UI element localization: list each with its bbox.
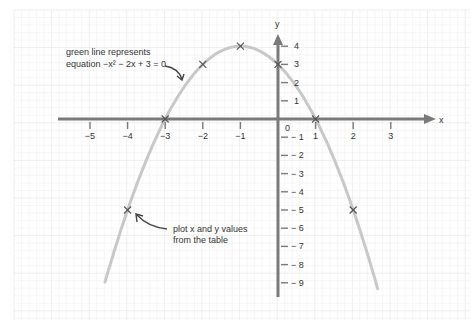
chart: xy −5−4−3−2−11234321− 1− 2− 3− 4− 5− 6− … (0, 0, 476, 327)
y-tick-label: − 1 (291, 132, 304, 142)
y-tick-label: − 9 (291, 278, 304, 288)
arrow-icon (137, 215, 167, 229)
y-tick-label: 2 (294, 78, 299, 88)
annotation-equation-line2: equation −x² − 2x + 3 = 0 (66, 59, 166, 69)
y-tick-label: − 6 (291, 223, 304, 233)
x-tick-label: −5 (85, 131, 95, 141)
y-tick-label: 3 (294, 59, 299, 69)
curve-line (105, 46, 378, 289)
y-tick-label: − 8 (291, 260, 304, 270)
annotation-plot-line1: plot x and y values (173, 224, 248, 234)
x-tick-label: 3 (388, 131, 393, 141)
annotation-equation-line1: green line represents (66, 47, 151, 57)
y-tick-label: − 2 (291, 150, 304, 160)
y-tick-label: 4 (294, 41, 299, 51)
annotation-plot-line2: from the table (173, 235, 228, 245)
y-tick-label: − 5 (291, 205, 304, 215)
y-axis-label: y (275, 19, 280, 29)
y-tick-label: − 3 (291, 169, 304, 179)
y-axis-arrow-icon (273, 34, 283, 45)
x-tick-label: −3 (160, 131, 170, 141)
x-tick-label: −4 (122, 131, 132, 141)
x-tick-label: −1 (235, 131, 245, 141)
x-tick-label: −2 (198, 131, 208, 141)
y-tick-label: − 4 (291, 187, 304, 197)
x-tick-label: 1 (313, 131, 318, 141)
origin-label: 0 (285, 123, 290, 133)
x-marker-icon (199, 61, 206, 68)
y-tick-label: − 7 (291, 241, 304, 251)
x-axis-label: x (439, 115, 444, 125)
y-tick-label: 1 (294, 96, 299, 106)
parabola-curve (105, 46, 378, 289)
x-tick-label: 2 (351, 131, 356, 141)
